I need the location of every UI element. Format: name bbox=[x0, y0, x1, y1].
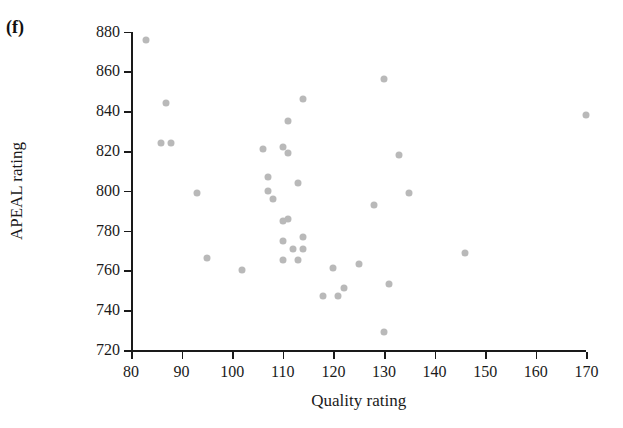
data-point bbox=[279, 217, 286, 224]
y-axis-title: APEAL rating bbox=[8, 142, 25, 240]
y-axis-tick-label: 880 bbox=[96, 24, 120, 40]
data-point bbox=[279, 257, 286, 264]
data-point bbox=[381, 76, 388, 83]
x-axis-tick bbox=[384, 352, 386, 359]
data-point bbox=[300, 96, 307, 103]
x-axis-tick-label: 80 bbox=[123, 364, 139, 380]
plot-area: 720740760780800820840860880 809010011012… bbox=[131, 32, 586, 350]
data-point bbox=[300, 233, 307, 240]
x-axis-line bbox=[131, 350, 586, 352]
y-axis-tick bbox=[124, 270, 131, 272]
x-axis-tick-label: 100 bbox=[220, 364, 244, 380]
x-axis-tick-label: 130 bbox=[372, 364, 396, 380]
y-axis-tick bbox=[124, 191, 131, 193]
data-point bbox=[396, 152, 403, 159]
panel-label: (f) bbox=[6, 18, 24, 36]
y-axis-tick bbox=[124, 111, 131, 113]
x-axis-tick-label: 90 bbox=[174, 364, 190, 380]
data-point bbox=[259, 146, 266, 153]
x-axis-tick bbox=[182, 352, 184, 359]
y-axis-tick bbox=[124, 71, 131, 73]
y-axis-tick-label: 780 bbox=[96, 223, 120, 239]
scatter-plot-figure: (f) 720740760780800820840860880 80901001… bbox=[0, 0, 623, 428]
x-axis-tick bbox=[232, 352, 234, 359]
data-point bbox=[340, 285, 347, 292]
data-point bbox=[264, 173, 271, 180]
data-point bbox=[330, 265, 337, 272]
y-axis-tick-label: 800 bbox=[96, 183, 120, 199]
data-point bbox=[158, 140, 165, 147]
x-axis-tick bbox=[333, 352, 335, 359]
data-point bbox=[143, 36, 150, 43]
x-axis-tick bbox=[283, 352, 285, 359]
y-axis-tick bbox=[124, 310, 131, 312]
data-point bbox=[355, 261, 362, 268]
x-axis-tick bbox=[536, 352, 538, 359]
y-axis-tick bbox=[124, 151, 131, 153]
y-axis-tick-label: 820 bbox=[96, 143, 120, 159]
y-axis-tick-label: 760 bbox=[96, 262, 120, 278]
data-point bbox=[461, 249, 468, 256]
y-axis-tick-label: 860 bbox=[96, 63, 120, 79]
y-axis-tick bbox=[124, 32, 131, 34]
data-point bbox=[284, 150, 291, 157]
data-point bbox=[269, 195, 276, 202]
x-axis-title: Quality rating bbox=[131, 392, 586, 409]
x-axis-tick-label: 120 bbox=[321, 364, 345, 380]
x-axis-tick bbox=[485, 352, 487, 359]
y-axis-tick-label: 840 bbox=[96, 103, 120, 119]
x-axis-tick-label: 150 bbox=[473, 364, 497, 380]
data-point bbox=[300, 245, 307, 252]
x-axis-tick-label: 110 bbox=[271, 364, 294, 380]
x-axis-tick-label: 160 bbox=[524, 364, 548, 380]
y-axis-tick-label: 740 bbox=[96, 302, 120, 318]
data-point bbox=[279, 237, 286, 244]
data-point bbox=[264, 187, 271, 194]
x-axis-tick bbox=[131, 352, 133, 359]
data-point bbox=[294, 179, 301, 186]
data-point bbox=[335, 293, 342, 300]
data-point bbox=[320, 293, 327, 300]
data-point bbox=[193, 189, 200, 196]
data-point bbox=[203, 255, 210, 262]
data-point bbox=[406, 189, 413, 196]
y-axis-line bbox=[131, 32, 133, 350]
x-axis-tick bbox=[586, 352, 588, 359]
y-axis-tick bbox=[124, 231, 131, 233]
data-point bbox=[381, 329, 388, 336]
x-axis-tick-label: 140 bbox=[423, 364, 447, 380]
data-point bbox=[239, 267, 246, 274]
data-point bbox=[386, 281, 393, 288]
data-point bbox=[163, 100, 170, 107]
x-axis-tick-label: 170 bbox=[574, 364, 598, 380]
data-point bbox=[583, 112, 590, 119]
data-point bbox=[284, 118, 291, 125]
data-point bbox=[289, 245, 296, 252]
data-point bbox=[168, 140, 175, 147]
data-point bbox=[294, 257, 301, 264]
x-axis-tick bbox=[435, 352, 437, 359]
y-axis-tick-label: 720 bbox=[96, 342, 120, 358]
y-axis-tick bbox=[124, 350, 131, 352]
data-point bbox=[370, 201, 377, 208]
